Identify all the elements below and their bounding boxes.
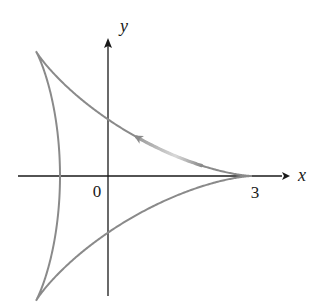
origin-label: 0 [93, 182, 102, 201]
direction-highlight [137, 137, 202, 166]
x-tick-label-3: 3 [251, 183, 260, 202]
deltoid-figure: y x 0 3 [0, 0, 313, 302]
x-axis-arrow-icon [282, 172, 290, 180]
y-axis [104, 38, 112, 296]
x-axis-label: x [297, 165, 306, 185]
y-axis-label: y [118, 16, 128, 36]
